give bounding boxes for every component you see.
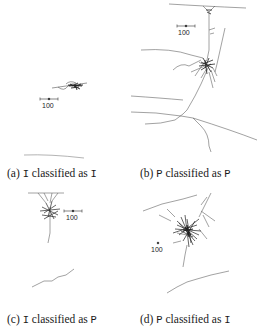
caption-b-word: classified as [165,167,221,179]
caption-b: (b) P classified as P [140,167,231,180]
caption-c-predicted-class: P [91,314,97,326]
scale-bar-label-d: 100 [151,246,163,253]
caption-d-word: classified as [165,313,221,325]
panel-a: 100 [0,0,131,165]
scale-bar-c [64,210,82,213]
panel-b: 100 [131,0,263,165]
caption-d-prefix: (d) [140,313,153,325]
caption-a-true-class: I [23,168,29,180]
caption-c: (c) I classified as P [7,313,97,326]
panel-d: 100 [131,185,263,310]
scale-bar-label-a: 100 [42,102,54,109]
dense-dendrites-c [40,201,60,219]
neuron-morphology-c: 100 [0,185,131,310]
caption-d: (d) P classified as I [140,313,231,326]
scale-bar-a [40,98,58,101]
scale-bar-d [157,242,159,244]
dense-dendrites-a [68,83,83,90]
neuron-morphology-b: 100 [131,0,263,165]
scale-bar-label-c: 100 [66,214,78,221]
caption-c-true-class: I [23,314,29,326]
caption-a-prefix: (a) [7,167,20,179]
dense-soma-b [199,10,215,74]
scale-bar-label-b: 100 [178,29,190,36]
neuron-morphology-a: 100 [0,0,131,165]
caption-b-predicted-class: P [224,168,230,180]
caption-a-word: classified as [32,167,88,179]
caption-d-true-class: P [156,314,162,326]
caption-d-predicted-class: I [224,314,230,326]
scale-bar-b [177,25,195,28]
caption-b-prefix: (b) [140,167,153,179]
panel-c: 100 [0,185,131,310]
caption-a-predicted-class: I [91,168,97,180]
caption-c-word: classified as [32,313,88,325]
caption-a: (a) I classified as I [7,167,97,180]
caption-b-true-class: P [156,168,162,180]
caption-c-prefix: (c) [7,313,20,325]
neuron-morphology-d: 100 [131,185,263,310]
